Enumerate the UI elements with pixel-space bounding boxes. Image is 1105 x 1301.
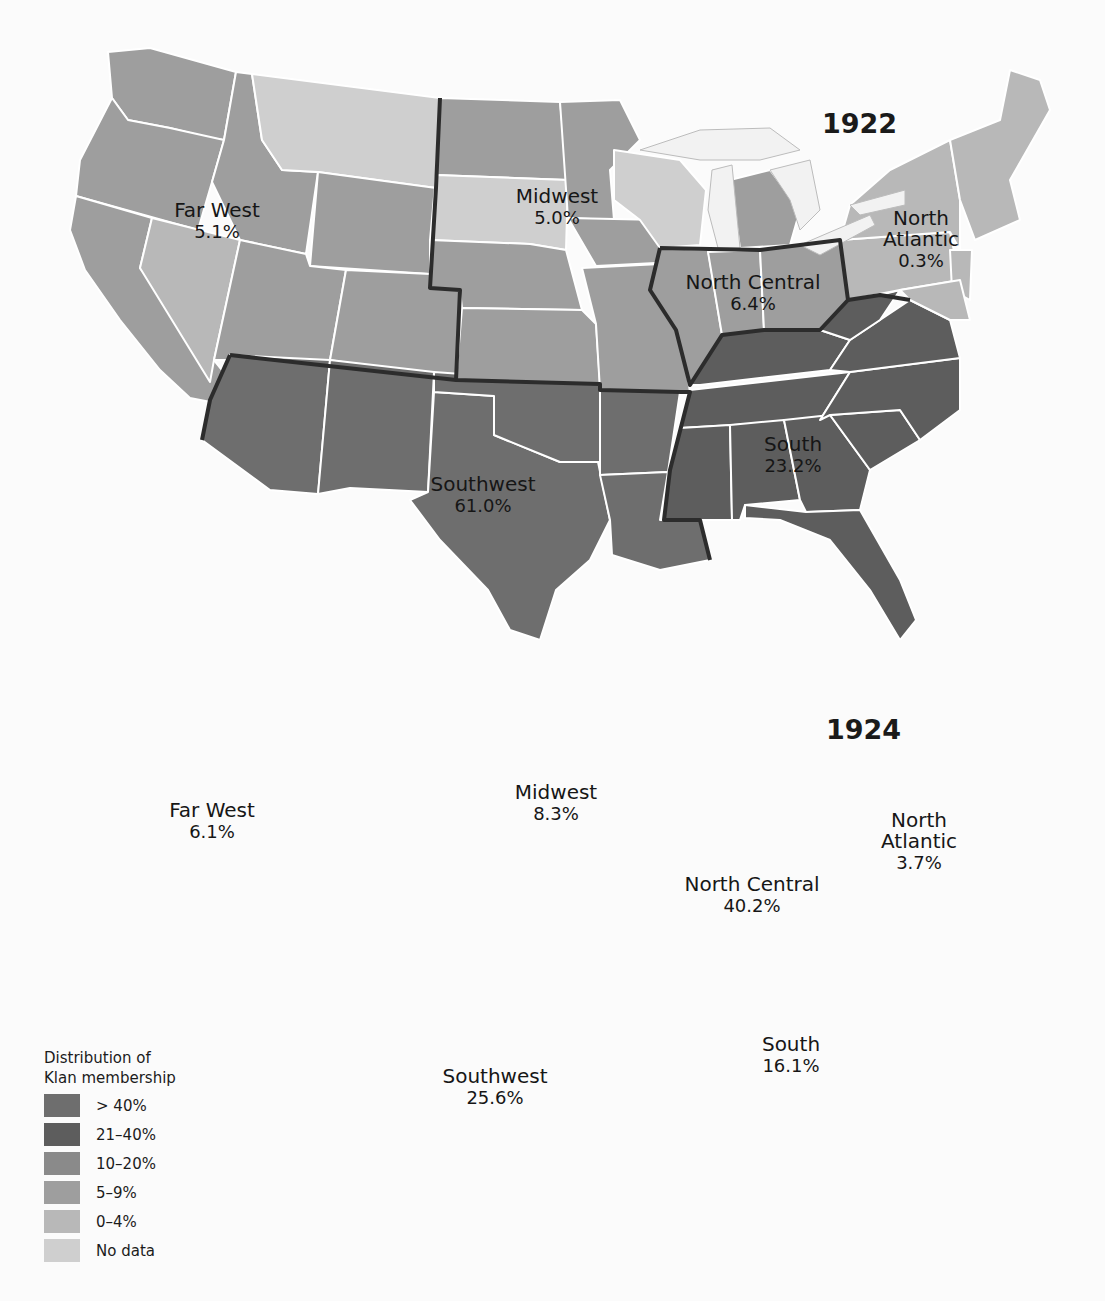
legend-swatch [44, 1123, 80, 1146]
region-name: Far West [169, 800, 255, 821]
region-name: North Central [684, 874, 819, 895]
region-label-midwest-1922: Midwest 5.0% [516, 186, 598, 228]
region-name-line2: Atlantic [883, 229, 959, 250]
region-value: 3.7% [881, 852, 957, 873]
state-wyoming [310, 172, 436, 274]
legend-swatch [44, 1094, 80, 1117]
region-label-far-west-1924: Far West 6.1% [169, 800, 255, 842]
legend-item: 5–9% [44, 1181, 176, 1204]
state-kansas [456, 308, 600, 384]
region-name: North [883, 208, 959, 229]
map-1922: 1922 Far West 5.1% Midwest 5.0% North Ce… [0, 0, 1105, 640]
region-name: North [881, 810, 957, 831]
legend-swatch [44, 1210, 80, 1233]
region-label-north-central-1922: North Central 6.4% [685, 272, 820, 314]
legend-swatch [44, 1181, 80, 1204]
region-label-south-1922: South 23.2% [764, 434, 822, 476]
region-name: Midwest [516, 186, 598, 207]
state-new-england [950, 70, 1050, 240]
region-value: 5.1% [174, 221, 260, 242]
legend-swatch [44, 1239, 80, 1262]
legend-item: No data [44, 1239, 176, 1262]
region-name: Far West [174, 200, 260, 221]
region-name: Southwest [442, 1066, 547, 1087]
year-title-1922: 1922 [822, 108, 897, 139]
legend-title-line2: Klan membership [44, 1068, 176, 1088]
region-label-north-atlantic-1924: North North Atlantic Atlantic 3.7% [881, 810, 957, 873]
region-value: 6.4% [685, 293, 820, 314]
year-title-1924: 1924 [826, 714, 901, 745]
region-name: South [762, 1034, 820, 1055]
region-name: Southwest [430, 474, 535, 495]
region-label-north-atlantic-1922: North North Atlantic Atlantic 0.3% [883, 208, 959, 271]
lake-superior [640, 128, 800, 160]
legend-label: 21–40% [96, 1126, 156, 1144]
legend-item: 0–4% [44, 1210, 176, 1233]
map-1922-svg [0, 0, 1105, 640]
state-mississippi [664, 425, 732, 520]
region-name: North Central [685, 272, 820, 293]
legend-label: 10–20% [96, 1155, 156, 1173]
region-value: 5.0% [516, 207, 598, 228]
legend-swatch [44, 1152, 80, 1175]
region-label-southwest-1924: Southwest 25.6% [442, 1066, 547, 1108]
region-label-midwest-1924: Midwest 8.3% [515, 782, 597, 824]
legend-item: 10–20% [44, 1152, 176, 1175]
region-value: 25.6% [442, 1087, 547, 1108]
region-value: 0.3% [883, 250, 959, 271]
region-label-far-west-1922: Far West 5.1% [174, 200, 260, 242]
region-value: 40.2% [684, 895, 819, 916]
region-value: 16.1% [762, 1055, 820, 1076]
region-label-south-1924: South 16.1% [762, 1034, 820, 1076]
region-label-southwest-1922: Southwest 61.0% [430, 474, 535, 516]
state-new-mexico [318, 360, 434, 494]
region-name: Midwest [515, 782, 597, 803]
legend-title-line1: Distribution of [44, 1048, 176, 1068]
region-name-line2: Atlantic [881, 831, 957, 852]
state-arkansas [600, 390, 680, 475]
legend-item: 21–40% [44, 1123, 176, 1146]
region-value: 23.2% [764, 455, 822, 476]
legend-label: 0–4% [96, 1213, 137, 1231]
region-name: South [764, 434, 822, 455]
region-value: 6.1% [169, 821, 255, 842]
legend: Distribution of Klan membership > 40% 21… [44, 1048, 176, 1262]
legend-label: No data [96, 1242, 155, 1260]
lake-michigan [708, 165, 740, 248]
legend-label: 5–9% [96, 1184, 137, 1202]
region-label-north-central-1924: North Central 40.2% [684, 874, 819, 916]
state-north-dakota [436, 98, 568, 180]
legend-item: > 40% [44, 1094, 176, 1117]
region-value: 61.0% [430, 495, 535, 516]
region-value: 8.3% [515, 803, 597, 824]
legend-label: > 40% [96, 1097, 147, 1115]
